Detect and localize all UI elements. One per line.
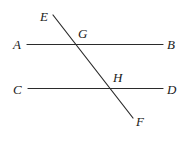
label-c: C bbox=[13, 82, 22, 97]
geometry-canvas: EGABHCDF bbox=[0, 0, 188, 143]
label-e: E bbox=[39, 9, 48, 24]
label-d: D bbox=[166, 82, 177, 97]
lines-group bbox=[27, 15, 163, 118]
geometry-diagram: EGABHCDF bbox=[0, 0, 188, 143]
line-ef bbox=[53, 15, 133, 118]
label-b: B bbox=[167, 37, 175, 52]
label-f: F bbox=[135, 114, 145, 129]
label-g: G bbox=[78, 26, 88, 41]
label-h: H bbox=[112, 70, 123, 85]
label-a: A bbox=[12, 37, 21, 52]
